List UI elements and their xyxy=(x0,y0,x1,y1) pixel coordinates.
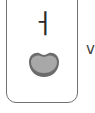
vowel-glyph: ㅓ xyxy=(7,9,79,39)
mouth-open-icon xyxy=(26,49,62,79)
vowel-card[interactable]: ㅓ xyxy=(6,0,78,103)
side-label: v xyxy=(86,40,95,58)
